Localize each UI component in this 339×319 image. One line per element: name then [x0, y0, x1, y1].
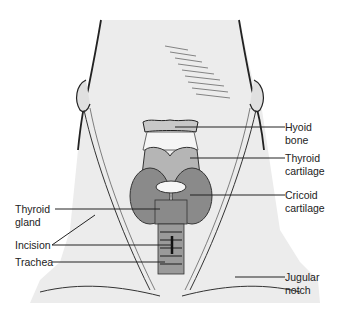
- label-hyoid-bone: Hyoid bone: [285, 121, 312, 147]
- anatomy-diagram: Hyoid bone Thyroid cartilage Cricoid car…: [0, 0, 339, 319]
- label-incision: Incision: [15, 239, 51, 252]
- label-line: Thyroid: [15, 203, 50, 216]
- label-line: Jugular: [285, 271, 319, 284]
- label-line: bone: [285, 134, 312, 147]
- label-line: Trachea: [15, 256, 53, 269]
- label-line: gland: [15, 216, 50, 229]
- label-line: Cricoid: [285, 189, 325, 202]
- label-line: notch: [285, 284, 319, 297]
- label-thyroid-cartilage: Thyroid cartilage: [285, 152, 325, 178]
- label-trachea: Trachea: [15, 256, 53, 269]
- label-line: Thyroid: [285, 152, 325, 165]
- label-line: cartilage: [285, 165, 325, 178]
- label-line: Hyoid: [285, 121, 312, 134]
- label-cricoid-cartilage: Cricoid cartilage: [285, 189, 325, 215]
- label-thyroid-gland: Thyroid gland: [15, 203, 50, 229]
- label-line: Incision: [15, 239, 51, 252]
- label-line: cartilage: [285, 202, 325, 215]
- label-jugular-notch: Jugular notch: [285, 271, 319, 297]
